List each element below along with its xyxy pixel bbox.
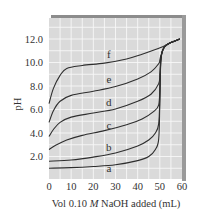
curve-label-c: c [106, 119, 111, 131]
x-tick-label: 10 [66, 181, 77, 192]
y-axis-tick-labels: 2.04.06.08.010.012.0 [25, 34, 43, 163]
x-tick-label: 20 [88, 181, 99, 192]
x-tick-label: 60 [177, 181, 188, 192]
x-axis-tick-labels: 0102030405060 [46, 181, 187, 192]
y-axis-title: pH [12, 97, 23, 110]
x-tick-label: 50 [155, 181, 166, 192]
x-tick-label: 0 [46, 181, 51, 192]
x-tick-label: 30 [110, 181, 121, 192]
y-tick-label: 6.0 [30, 104, 43, 115]
x-axis-title-prefix: Vol 0.10 [52, 198, 90, 209]
curve-label-a: a [106, 162, 111, 174]
plot-shadow-right [182, 15, 186, 181]
curve-label-e: e [106, 73, 111, 85]
y-tick-label: 4.0 [30, 128, 43, 139]
x-tick-label: 40 [132, 181, 143, 192]
x-axis-title: Vol 0.10 M NaOH added (mL) [52, 198, 181, 210]
y-tick-label: 8.0 [30, 81, 43, 92]
curve-label-b: b [106, 141, 112, 153]
y-tick-label: 12.0 [25, 34, 43, 45]
y-tick-label: 2.0 [30, 151, 43, 162]
curve-label-f: f [107, 48, 111, 60]
titration-chart: abcdef 2.04.06.08.010.012.0 010203040506… [0, 0, 197, 213]
curve-label-d: d [106, 96, 112, 108]
x-axis-title-suffix: NaOH added (mL) [98, 198, 180, 210]
y-tick-label: 10.0 [25, 57, 43, 68]
